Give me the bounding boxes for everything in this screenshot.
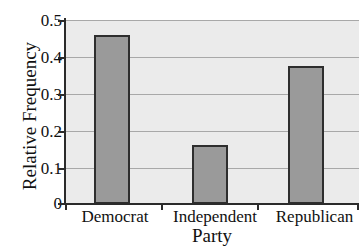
bar-republican [288,66,324,204]
y-tick-label-0.3: 0.3 [22,86,62,103]
gridline-0.5 [65,20,359,21]
y-axis-line [64,18,66,205]
y-tick-label-0.1: 0.1 [22,160,62,177]
y-tick-label-0: 0 [22,195,62,212]
x-tick-label-republican: Republican [257,206,359,227]
y-tick-label-0.5: 0.5 [22,12,62,29]
y-tick-label-0.2: 0.2 [22,123,62,140]
y-tick-label-0.4: 0.4 [22,49,62,66]
plot-area [65,20,359,204]
y-axis-tick-labels: 0.5 0.4 0.3 0.2 0.1 0 [16,0,62,242]
bar-independent [192,145,228,204]
bar-democrat [94,35,130,204]
x-axis-line [64,203,359,205]
x-tick-label-democrat: Democrat [60,206,170,227]
x-axis-title: Party [65,226,359,245]
